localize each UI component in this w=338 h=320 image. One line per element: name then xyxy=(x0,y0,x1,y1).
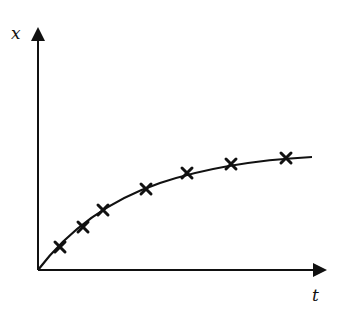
data-markers xyxy=(55,153,291,252)
y-axis-label: x xyxy=(11,23,21,43)
x-axis-label: t xyxy=(312,285,319,305)
fit-curve xyxy=(38,157,312,270)
chart: x t xyxy=(0,0,338,320)
cross-marker-icon xyxy=(98,205,108,215)
x-axis-arrow-icon xyxy=(313,263,327,277)
y-axis-arrow-icon xyxy=(31,27,45,41)
